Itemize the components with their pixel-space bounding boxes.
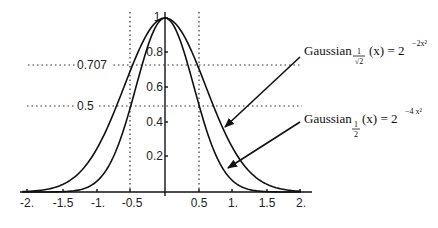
x-tick-label: -0.5 [122,196,143,210]
axes [20,12,312,196]
legend1-base: Gaussian [304,43,352,58]
legend-gaussian-sqrt2: Gaussian 1 √2 (x) = 2 −2x² [304,39,428,66]
legend-gaussian-half: Gaussian 1 2 (x) = 2 −4 x² [304,107,423,139]
ref-label-05: 0.5 [77,99,94,113]
legend2-base: Gaussian [304,111,352,126]
x-tick-labels: -2. -1.5 -1. -0.5 0.5 1. 1.5 2. [20,196,306,210]
y-tick-label: 0.4 [146,115,163,129]
ref-label-0707: 0.707 [77,58,107,72]
x-tick-label: 0.5 [191,196,208,210]
x-tick-label: 1.5 [259,196,276,210]
annotation-arrow-2 [228,122,300,168]
legend1-sub-num: 1 [357,47,361,56]
y-tick-label: 0.6 [146,80,163,94]
legend2-sub-num: 1 [354,120,358,129]
x-tick-label: -2. [20,196,34,210]
legend2-sup: −4 x² [405,107,423,116]
legend1-rest: (x) = 2 [369,43,405,58]
legend2-sub-den: 2 [354,130,358,139]
x-tick-label: -1.5 [53,196,74,210]
legend1-sup: −2x² [412,39,428,48]
gaussian-chart: -2. -1.5 -1. -0.5 0.5 1. 1.5 2. 0.2 0.4 … [0,0,438,228]
x-tick-label: 1. [228,196,238,210]
y-tick-label: 0.8 [146,45,163,59]
y-tick-label: 0.2 [146,149,163,163]
y-tick-labels: 0.2 0.4 0.6 0.8 1 [146,10,163,163]
x-tick-label: 2. [296,196,306,210]
legend2-rest: (x) = 2 [362,111,398,126]
x-tick-label: -1. [91,196,105,210]
legend1-sub-den: √2 [355,57,363,66]
annotation-arrow-1 [225,57,300,127]
